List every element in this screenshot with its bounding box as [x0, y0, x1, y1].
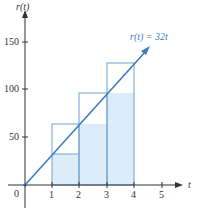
- lower-rect-1: [52, 154, 79, 185]
- chart: r(t) t r(t) = 32t 0 1 2 3 4 5 50 100 150: [0, 0, 198, 213]
- lower-rect-2: [79, 124, 107, 185]
- lower-sum-rectangles: [52, 93, 134, 185]
- origin-point: [23, 183, 26, 186]
- x-tick-4: 4: [131, 189, 136, 200]
- x-tick-2: 2: [76, 189, 81, 200]
- x-tick-5: 5: [159, 189, 164, 200]
- x-tick-0: 0: [14, 188, 19, 199]
- y-tick-150: 150: [4, 36, 19, 47]
- x-axis-arrow-icon: [175, 182, 183, 188]
- x-axis-label: t: [188, 179, 191, 190]
- lower-rect-3: [107, 93, 134, 185]
- y-tick-50: 50: [9, 131, 19, 142]
- y-axis-label: r(t): [16, 1, 30, 13]
- x-tick-3: 3: [104, 189, 109, 200]
- x-tick-1: 1: [49, 189, 54, 200]
- line-arrow-icon: [141, 46, 150, 55]
- equation-label: r(t) = 32t: [130, 31, 168, 43]
- y-tick-100: 100: [4, 83, 19, 94]
